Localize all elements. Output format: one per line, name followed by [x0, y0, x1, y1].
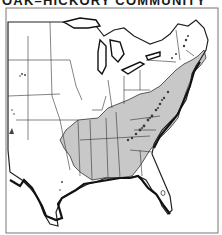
lake-huron — [110, 40, 124, 62]
outlier-patches — [9, 73, 63, 191]
lake-okeechobee — [161, 191, 165, 196]
lake-superior — [64, 18, 100, 28]
oak-hickory-map — [0, 0, 222, 235]
lake-michigan — [98, 40, 106, 74]
gulf-coast — [10, 176, 170, 220]
lake-erie — [122, 62, 144, 74]
lake-ontario — [146, 52, 160, 60]
